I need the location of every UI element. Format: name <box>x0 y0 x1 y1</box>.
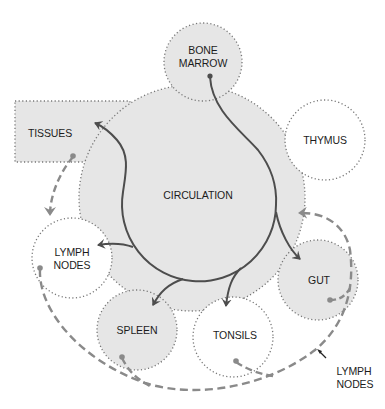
lymph-nodes-label-line1: LYMPH <box>54 246 91 259</box>
lymph-vessel-annotation-line1: LYMPH <box>337 365 374 378</box>
bone-marrow-label: BONE MARROW <box>179 44 227 70</box>
lymph-vessel-annotation-line2: NODES <box>337 378 374 391</box>
lymph-tissues-to-nodes <box>50 157 73 215</box>
tissues-label: TISSUES <box>28 127 72 140</box>
lymph-nodes-label-line2: NODES <box>54 259 91 272</box>
tonsils-label: TONSILS <box>213 329 257 342</box>
bone-marrow-label-line1: BONE <box>179 44 227 57</box>
lymph-vessel-annotation: LYMPH NODES <box>337 365 374 391</box>
circulation-label: CIRCULATION <box>163 189 232 202</box>
lymph-nodes-label: LYMPH NODES <box>54 246 91 272</box>
gut-label: GUT <box>308 274 330 287</box>
spleen-label: SPLEEN <box>117 324 158 337</box>
bone-marrow-label-line2: MARROW <box>179 57 227 70</box>
thymus-label: THYMUS <box>303 134 347 147</box>
